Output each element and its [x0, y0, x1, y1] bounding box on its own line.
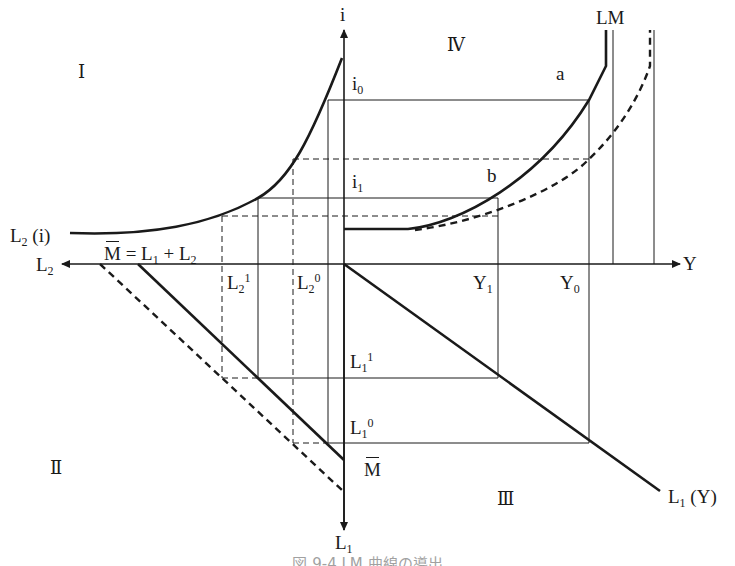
- label-y1: Y1: [473, 273, 493, 292]
- quadrant-label-2: Ⅱ: [50, 459, 61, 477]
- label-l1-of-y: L1 (Y): [668, 487, 717, 506]
- axis-l2-main: L: [36, 254, 48, 275]
- quadrant-label-1: Ⅰ: [78, 63, 84, 81]
- solid-guides: [258, 30, 654, 443]
- axis-label-l2: L2: [36, 255, 54, 274]
- axis-l2-sub: 2: [48, 264, 54, 278]
- label-money-supply: M: [364, 460, 381, 479]
- label-i1: i1: [352, 172, 363, 191]
- label-l1-1: L11: [350, 352, 373, 371]
- lm-curve: [344, 30, 606, 229]
- axis-label-i: i: [340, 5, 345, 24]
- lm-curve-diagram: [0, 0, 735, 566]
- quadrant-label-3: Ⅲ: [497, 490, 513, 508]
- axis-l1-main: L: [335, 532, 347, 553]
- axis-label-l1: L1: [335, 533, 353, 552]
- label-y0: Y0: [560, 273, 580, 292]
- lm-curve-shifted: [415, 30, 650, 230]
- label-l2-0: L20: [297, 273, 321, 292]
- label-l2-1: L21: [227, 273, 251, 292]
- axis-label-y: Y: [683, 254, 697, 273]
- quadrant-label-4: Ⅳ: [447, 36, 464, 54]
- figure-caption: 図 9-4 LM 曲線の導出: [0, 553, 735, 566]
- label-l2-of-i: L2 (i): [10, 226, 50, 245]
- label-l1-0: L10: [350, 418, 374, 437]
- l2-speculative-demand-curve: [70, 58, 342, 233]
- lm-curve-label: LM: [596, 8, 625, 27]
- point-b-label: b: [487, 166, 497, 185]
- label-i0: i0: [352, 74, 363, 93]
- money-equation-label: M = L1 + L2: [104, 244, 197, 263]
- point-a-label: a: [556, 64, 564, 83]
